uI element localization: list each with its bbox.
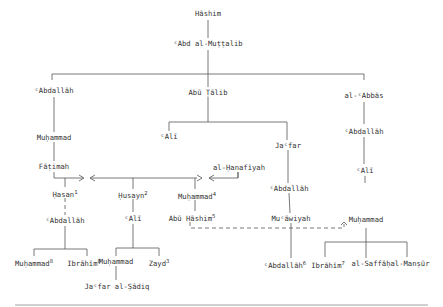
node-label: Muḥammad <box>15 259 50 268</box>
node-ibrahim-8: Ibrāhīm8 <box>67 257 101 268</box>
node-label: Ibrāhīm <box>311 261 341 270</box>
node-label: al-Manṣūr <box>391 259 430 268</box>
node-abdallah-father: ᶜAbdallāh <box>35 86 74 95</box>
node-label: ᶜAbdallāh <box>345 127 384 136</box>
node-label: ᶜAbdallāh <box>270 184 309 193</box>
node-abdallah-abbas: ᶜAbdallāh <box>345 127 384 136</box>
node-label: Hāshim <box>195 9 221 18</box>
node-label: ᶜAbdallāh <box>35 86 74 95</box>
node-ali-zayn: ᶜAlī <box>124 214 141 223</box>
node-ibrahim-7: Ibrāhīm7 <box>311 259 345 270</box>
footnote-marker: 4 <box>213 191 216 197</box>
node-label: Jaᶜfar <box>275 141 301 150</box>
node-muhammad-baqir: Muḥammad <box>99 257 134 266</box>
node-hashim: Hāshim <box>195 9 221 18</box>
node-muawiyah: Muᶜāwiyah <box>272 214 311 223</box>
node-hasan: Ḥasan1 <box>53 188 78 199</box>
node-al-saffah: al-Saffāḥ <box>352 259 391 268</box>
node-muhammad-prophet: Muḥammad <box>37 133 72 142</box>
footnote-marker: 1 <box>74 189 77 195</box>
node-jafar-sadiq: Jaᶜfar al-Ṣādiq <box>85 282 150 291</box>
node-label: Fāṭimah <box>39 162 69 171</box>
node-muhammad-4: Muḥammad4 <box>178 190 216 201</box>
footnote-marker: 2 <box>144 190 147 196</box>
node-label: Jaᶜfar al-Ṣādiq <box>85 282 150 291</box>
node-abdallah-6: ᶜAbdallāh6 <box>264 259 306 270</box>
node-al-hanafiyah: al-Ḥanafīyah <box>213 163 265 172</box>
node-label: Ḥasan <box>53 190 75 199</box>
node-label: al-Saffāḥ <box>352 259 391 268</box>
node-label: al-Ḥanafīyah <box>213 163 265 172</box>
node-muhammad-abbasid: Muḥammad <box>349 215 384 224</box>
node-abdallah-hasan: ᶜAbdallāh <box>46 216 85 225</box>
node-label: Muḥammad <box>99 257 134 266</box>
footnote-marker: 7 <box>341 260 344 266</box>
node-label: ᶜAbdallāh <box>264 261 303 270</box>
node-label: ᶜAbd al-Muṭṭalib <box>173 39 242 48</box>
node-label: al-ᶜAbbās <box>345 91 384 100</box>
node-zayd: Zayd3 <box>149 257 170 268</box>
node-fatimah: Fāṭimah <box>39 162 69 171</box>
node-label: Ibrāhīm <box>67 259 97 268</box>
footnote-marker: 3 <box>166 258 169 264</box>
node-abd-al-muttalib: ᶜAbd al-Muṭṭalib <box>173 39 242 48</box>
node-label: Abū Ṭālib <box>189 88 228 97</box>
node-label: Muḥammad <box>178 192 213 201</box>
node-label: Muᶜāwiyah <box>272 214 311 223</box>
genealogy-tree: Hāshim ᶜAbd al-Muṭṭalib ᶜAbdallāh Muḥamm… <box>0 0 443 307</box>
node-muhammad-8: Muḥammad8 <box>15 257 53 268</box>
node-ali-abbas: ᶜAlī <box>356 166 373 175</box>
node-jafar: Jaᶜfar <box>275 141 301 150</box>
node-abdallah-jafar: ᶜAbdallāh <box>270 184 309 193</box>
footnote-marker: 8 <box>50 258 53 264</box>
node-label: Ḥusayn <box>118 191 144 200</box>
node-label: Muḥammad <box>349 215 384 224</box>
node-al-abbas: al-ᶜAbbās <box>345 91 384 100</box>
node-label: ᶜAbdallāh <box>46 216 85 225</box>
node-abu-talib: Abū Ṭālib <box>189 88 228 97</box>
node-husayn: Ḥusayn2 <box>118 189 147 200</box>
node-label: ᶜAlī <box>356 166 373 175</box>
node-label: ᶜAlī <box>160 132 177 141</box>
node-label: Muḥammad <box>37 133 72 142</box>
node-label: Abū Hāshim <box>169 214 212 223</box>
node-al-mansur: al-Manṣūr <box>391 259 430 268</box>
node-ali: ᶜAlī <box>160 132 177 141</box>
footnote-marker: 5 <box>212 213 215 219</box>
node-label: Zayd <box>149 259 166 268</box>
footnote-marker: 6 <box>303 260 306 266</box>
node-abu-hashim: Abū Hāshim5 <box>169 212 216 223</box>
node-label: ᶜAlī <box>124 214 141 223</box>
